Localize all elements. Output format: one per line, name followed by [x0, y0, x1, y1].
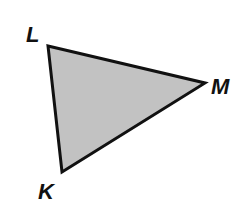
- triangle-diagram: L M K: [0, 0, 250, 222]
- vertex-label-l: L: [26, 22, 39, 47]
- vertex-label-k: K: [38, 179, 56, 204]
- triangle-klm: [48, 46, 205, 172]
- vertex-label-m: M: [211, 74, 230, 99]
